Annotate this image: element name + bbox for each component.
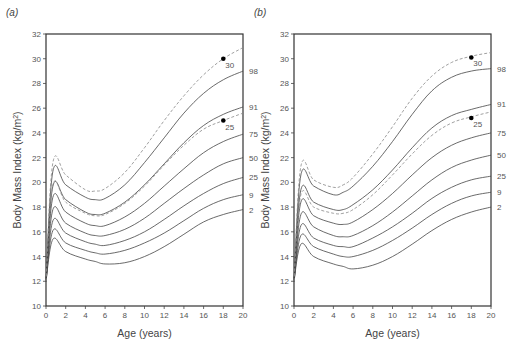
cutoff-point-label: 25 — [225, 123, 234, 132]
x-tick-label: 8 — [123, 311, 128, 320]
centile-label: 2 — [249, 206, 254, 215]
y-tick-label: 26 — [32, 104, 41, 113]
cutoff-curve-30 — [294, 53, 491, 282]
bmi-centile-charts: (a)1012141618202224262830320246810121416… — [0, 0, 512, 349]
x-tick-label: 4 — [83, 311, 88, 320]
x-tick-label: 20 — [239, 311, 248, 320]
y-tick-label: 16 — [32, 228, 41, 237]
x-tick-label: 2 — [63, 311, 68, 320]
cutoff-point-label: 25 — [473, 120, 482, 129]
x-tick-label: 8 — [371, 311, 376, 320]
x-tick-label: 12 — [160, 311, 169, 320]
y-tick-label: 22 — [32, 154, 41, 163]
y-tick-label: 32 — [32, 30, 41, 39]
panel-label: (b) — [254, 7, 266, 18]
y-tick-label: 18 — [32, 203, 41, 212]
centile-curve-2 — [294, 207, 491, 281]
x-tick-label: 16 — [447, 311, 456, 320]
y-tick-label: 30 — [32, 55, 41, 64]
x-tick-label: 6 — [351, 311, 356, 320]
centile-label: 50 — [497, 151, 506, 160]
cutoff-point-label: 30 — [473, 59, 482, 68]
centile-curve-50 — [294, 155, 491, 281]
y-tick-label: 28 — [32, 79, 41, 88]
x-tick-label: 16 — [199, 311, 208, 320]
panel-b: (b)1012141618202224262830320246810121416… — [254, 7, 506, 339]
x-tick-label: 14 — [179, 311, 188, 320]
centile-curve-25 — [46, 177, 243, 281]
x-tick-label: 18 — [219, 311, 228, 320]
y-tick-label: 12 — [32, 277, 41, 286]
y-tick-label: 14 — [32, 253, 41, 262]
x-axis-title: Age (years) — [117, 327, 171, 339]
y-tick-label: 10 — [280, 302, 289, 311]
x-tick-label: 18 — [467, 311, 476, 320]
y-tick-label: 28 — [280, 79, 289, 88]
centile-label: 75 — [497, 129, 506, 138]
centile-label: 75 — [249, 130, 258, 139]
y-tick-label: 16 — [280, 228, 289, 237]
x-axis-title: Age (years) — [365, 327, 419, 339]
y-tick-label: 14 — [280, 253, 289, 262]
y-tick-label: 24 — [32, 129, 41, 138]
centile-curve-50 — [46, 158, 243, 282]
x-tick-label: 12 — [408, 311, 417, 320]
centile-label: 9 — [249, 191, 254, 200]
y-tick-label: 12 — [280, 277, 289, 286]
cutoff-curve-30 — [46, 48, 243, 282]
x-tick-label: 20 — [487, 311, 496, 320]
x-tick-label: 14 — [427, 311, 436, 320]
y-axis-title: Body Mass Index (kg/m2) — [11, 111, 23, 228]
panel-a: (a)1012141618202224262830320246810121416… — [6, 7, 258, 339]
x-tick-label: 6 — [103, 311, 108, 320]
y-tick-label: 10 — [32, 302, 41, 311]
x-tick-label: 10 — [388, 311, 397, 320]
centile-curve-98 — [46, 71, 243, 281]
centile-label: 91 — [497, 100, 506, 109]
x-tick-label: 0 — [44, 311, 49, 320]
x-tick-label: 2 — [311, 311, 316, 320]
centile-label: 98 — [249, 67, 258, 76]
centile-label: 25 — [249, 173, 258, 182]
y-tick-label: 26 — [280, 104, 289, 113]
y-tick-label: 30 — [280, 55, 289, 64]
y-tick-label: 18 — [280, 203, 289, 212]
plot-frame — [46, 34, 243, 306]
cutoff-curve-25 — [294, 112, 491, 281]
centile-curve-91 — [294, 104, 491, 281]
centile-label: 2 — [497, 203, 502, 212]
centile-label: 50 — [249, 154, 258, 163]
x-tick-label: 0 — [292, 311, 297, 320]
centile-label: 98 — [497, 65, 506, 74]
y-axis-title: Body Mass Index (kg/m2) — [259, 111, 271, 228]
centile-curve-25 — [294, 176, 491, 281]
centile-label: 9 — [497, 188, 502, 197]
y-tick-label: 24 — [280, 129, 289, 138]
cutoff-point-label: 30 — [225, 61, 234, 70]
centile-curve-75 — [294, 133, 491, 281]
y-tick-label: 20 — [32, 178, 41, 187]
centile-curve-9 — [294, 192, 491, 281]
centile-label: 25 — [497, 172, 506, 181]
centile-curve-2 — [46, 210, 243, 282]
x-tick-label: 10 — [140, 311, 149, 320]
y-tick-label: 20 — [280, 178, 289, 187]
x-tick-label: 4 — [331, 311, 336, 320]
y-tick-label: 32 — [280, 30, 289, 39]
centile-curve-75 — [46, 134, 243, 281]
centile-curve-91 — [46, 107, 243, 281]
panel-label: (a) — [6, 7, 18, 18]
y-tick-label: 22 — [280, 154, 289, 163]
centile-label: 91 — [249, 103, 258, 112]
